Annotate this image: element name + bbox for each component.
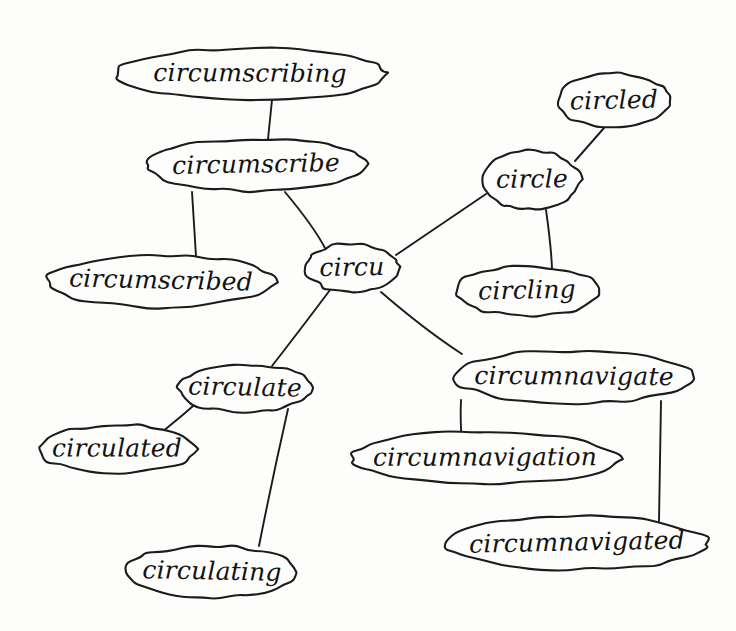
- edge-circle-to-circling: [546, 210, 552, 268]
- node-hub[interactable]: circu: [305, 244, 401, 293]
- edge-circumscribing-to-circumscribe: [268, 100, 272, 139]
- edge-circumscribe-to-circumscribed: [192, 192, 196, 256]
- node-circulating[interactable]: circulating: [125, 546, 296, 599]
- node-label-circumscribing: circumscribing: [153, 58, 347, 88]
- mind-map-canvas: circucircumscribecircumscribingcircumscr…: [0, 0, 736, 631]
- node-label-circle: circle: [496, 164, 568, 193]
- node-circle[interactable]: circle: [482, 150, 582, 210]
- node-label-circumscribed: circumscribed: [69, 263, 254, 296]
- node-circling[interactable]: circling: [456, 266, 599, 317]
- edge-hub-to-circulate: [272, 290, 330, 366]
- node-label-circumnavigated: circumnavigated: [469, 525, 685, 558]
- node-label-circumnavigation: circumnavigation: [373, 442, 597, 472]
- edge-circumnavigate-to-circumnavigated: [659, 401, 661, 521]
- mind-map-sketch: circucircumscribecircumscribingcircumscr…: [0, 0, 736, 631]
- edge-circumscribe-to-hub: [285, 192, 326, 250]
- node-circulated[interactable]: circulated: [39, 424, 198, 473]
- edge-circle-to-circled: [575, 128, 604, 161]
- node-label-circumscribe: circumscribe: [172, 148, 340, 180]
- node-label-circling: circling: [478, 274, 576, 305]
- node-circumscribed[interactable]: circumscribed: [46, 255, 278, 309]
- node-circumnavigation[interactable]: circumnavigation: [351, 432, 623, 485]
- node-circumnavigate[interactable]: circumnavigate: [453, 351, 694, 404]
- node-label-hub: circu: [319, 252, 384, 282]
- edge-hub-to-circumnavigate: [381, 292, 462, 354]
- node-circumscribing[interactable]: circumscribing: [116, 48, 388, 100]
- edge-circulate-to-circulating: [259, 409, 288, 546]
- node-circulate[interactable]: circulate: [177, 365, 313, 413]
- node-label-circulated: circulated: [52, 433, 182, 462]
- node-circumscribe[interactable]: circumscribe: [147, 139, 369, 192]
- node-circled[interactable]: circled: [558, 73, 670, 128]
- node-label-circulate: circulate: [188, 371, 302, 402]
- node-circumnavigated[interactable]: circumnavigated: [445, 515, 709, 570]
- node-label-circled: circled: [570, 85, 659, 116]
- node-label-circulating: circulating: [142, 555, 282, 587]
- node-layer: circucircumscribecircumscribingcircumscr…: [39, 48, 709, 599]
- node-label-circumnavigate: circumnavigate: [474, 361, 674, 391]
- edge-hub-to-circle: [396, 194, 486, 255]
